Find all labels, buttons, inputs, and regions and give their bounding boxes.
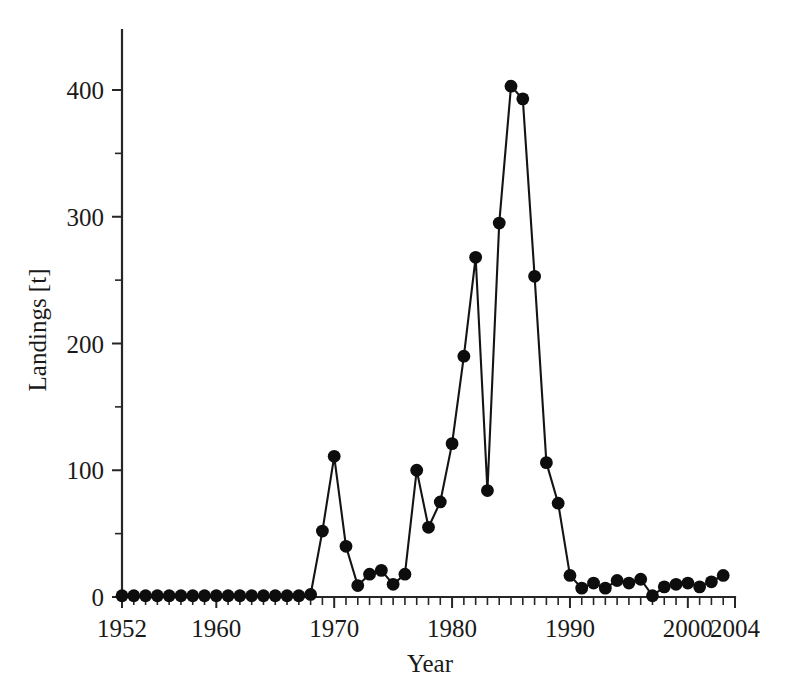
x-tick-label: 1980 xyxy=(427,615,477,642)
data-point-marker xyxy=(505,80,518,93)
y-tick-label: 200 xyxy=(67,331,105,358)
data-point-marker xyxy=(163,589,176,602)
y-axis: 0100200300400 xyxy=(67,30,123,611)
y-axis-title: Landings [t] xyxy=(24,269,51,392)
data-point-marker xyxy=(705,575,718,588)
y-tick-label: 100 xyxy=(67,457,105,484)
x-tick-label: 2000 xyxy=(663,615,713,642)
data-point-marker xyxy=(304,588,317,601)
data-point-marker xyxy=(516,92,529,105)
x-axis-title: Year xyxy=(407,650,454,677)
data-point-marker xyxy=(575,582,588,595)
data-point-marker xyxy=(316,525,329,538)
data-point-marker xyxy=(351,579,364,592)
data-point-marker xyxy=(328,450,341,463)
data-point-marker xyxy=(434,496,447,509)
data-point-marker xyxy=(127,589,140,602)
data-point-marker xyxy=(599,582,612,595)
data-point-marker xyxy=(292,589,305,602)
data-point-marker xyxy=(681,577,694,590)
data-point-marker xyxy=(457,350,470,363)
data-point-marker xyxy=(222,589,235,602)
y-tick-label: 400 xyxy=(67,77,105,104)
x-tick-label: 1952 xyxy=(97,615,147,642)
data-point-marker xyxy=(257,589,270,602)
data-point-marker xyxy=(233,589,246,602)
series-polyline xyxy=(122,86,723,596)
data-point-marker xyxy=(410,464,423,477)
data-point-marker xyxy=(340,540,353,553)
data-point-marker xyxy=(493,217,506,230)
data-point-marker xyxy=(552,497,565,510)
data-point-marker xyxy=(587,577,600,590)
line-chart-plot: 0100200300400 19521960197019801990200020… xyxy=(0,0,805,695)
data-point-marker xyxy=(634,573,647,586)
x-tick-label: 1960 xyxy=(191,615,241,642)
data-point-marker xyxy=(611,574,624,587)
data-point-marker xyxy=(175,589,188,602)
x-axis: 1952196019701980199020002004 xyxy=(97,597,761,642)
data-point-marker xyxy=(717,569,730,582)
data-point-marker xyxy=(116,589,129,602)
data-point-marker xyxy=(363,568,376,581)
data-point-marker xyxy=(564,569,577,582)
y-tick-label: 0 xyxy=(92,584,105,611)
data-point-marker xyxy=(658,580,671,593)
data-point-marker xyxy=(422,521,435,534)
y-tick-label: 300 xyxy=(67,204,105,231)
data-point-marker xyxy=(269,589,282,602)
data-point-marker xyxy=(481,484,494,497)
data-point-marker xyxy=(151,589,164,602)
chart-container: 0100200300400 19521960197019801990200020… xyxy=(0,0,805,695)
data-series-landings xyxy=(116,80,730,602)
x-tick-label: 1970 xyxy=(309,615,359,642)
x-tick-label: 2004 xyxy=(710,615,761,642)
data-point-marker xyxy=(198,589,211,602)
data-point-marker xyxy=(540,456,553,469)
data-point-marker xyxy=(281,589,294,602)
data-point-marker xyxy=(375,564,388,577)
data-point-marker xyxy=(623,577,636,590)
data-point-marker xyxy=(469,251,482,264)
data-point-marker xyxy=(528,270,541,283)
x-tick-label: 1990 xyxy=(545,615,595,642)
data-point-marker xyxy=(399,568,412,581)
data-point-marker xyxy=(186,589,199,602)
data-point-marker xyxy=(670,578,683,591)
data-point-marker xyxy=(446,437,459,450)
data-point-marker xyxy=(139,589,152,602)
data-point-marker xyxy=(210,589,223,602)
data-point-marker xyxy=(693,580,706,593)
data-point-marker xyxy=(245,589,258,602)
data-point-marker xyxy=(387,578,400,591)
data-point-marker xyxy=(646,589,659,602)
